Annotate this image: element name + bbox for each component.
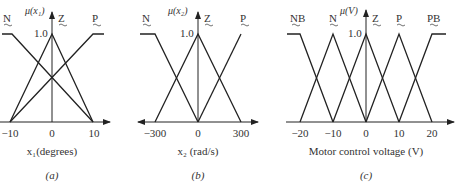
y-tick-1: 1.0 <box>34 27 48 39</box>
set-label-n: N <box>329 12 337 24</box>
caption-b: (b) <box>192 169 205 182</box>
x-tick-0: 0 <box>49 127 55 139</box>
set-label-nb: NB <box>290 12 305 24</box>
caption-c: (c) <box>360 169 373 182</box>
set-label-z: Z <box>58 12 65 24</box>
set-pb-curve <box>399 34 446 122</box>
x-tick-20: 20 <box>427 127 439 139</box>
x-tick-neg10: −10 <box>1 127 19 139</box>
panel-b: μ(x₂) 1.0 N Z P −300 0 300 x₂ (rad/s) (b… <box>138 5 258 182</box>
set-nb-curve <box>287 34 333 122</box>
y-tick-1: 1.0 <box>180 27 194 39</box>
y-axis-label: μ(V) <box>339 5 358 17</box>
set-label-p: P <box>240 12 246 24</box>
set-label-pb: PB <box>427 12 440 24</box>
set-n-curve <box>300 34 366 122</box>
x-tick-0: 0 <box>195 127 201 139</box>
x-tick-300: 300 <box>233 127 250 139</box>
set-label-z: Z <box>204 12 211 24</box>
fuzzy-tilde-marks <box>4 24 438 26</box>
x-tick-0: 0 <box>363 127 369 139</box>
panel-c: μ(V) 1.0 NB N Z P PB −20 −10 0 10 20 Mot… <box>286 5 454 182</box>
y-tick-1: 1.0 <box>348 27 362 39</box>
set-label-z: Z <box>372 12 379 24</box>
x-tick-10: 10 <box>89 127 101 139</box>
set-p-curve <box>366 34 432 122</box>
x-tick-neg300: −300 <box>144 127 167 139</box>
set-label-p: P <box>92 12 98 24</box>
x-tick-10: 10 <box>394 127 406 139</box>
set-label-p: P <box>396 12 402 24</box>
set-label-n: N <box>142 12 150 24</box>
x-axis-label: x₂ (rad/s) <box>178 145 219 158</box>
x-tick-neg20: −20 <box>291 127 309 139</box>
set-label-n: N <box>3 12 11 24</box>
x-tick-neg10: −10 <box>324 127 342 139</box>
caption-a: (a) <box>46 169 59 182</box>
y-axis-label: μ(x₁) <box>24 5 45 17</box>
membership-functions-figure: μ(x₁) 1.0 N Z P −10 0 10 x₁(degrees) (a)… <box>0 0 460 191</box>
y-axis-label: μ(x₂) <box>167 5 188 17</box>
x-axis-label: Motor control voltage (V) <box>309 145 424 158</box>
x-axis-label: x₁(degrees) <box>27 145 78 158</box>
panel-a: μ(x₁) 1.0 N Z P −10 0 10 x₁(degrees) (a) <box>0 5 110 182</box>
set-n-curve <box>140 34 198 122</box>
